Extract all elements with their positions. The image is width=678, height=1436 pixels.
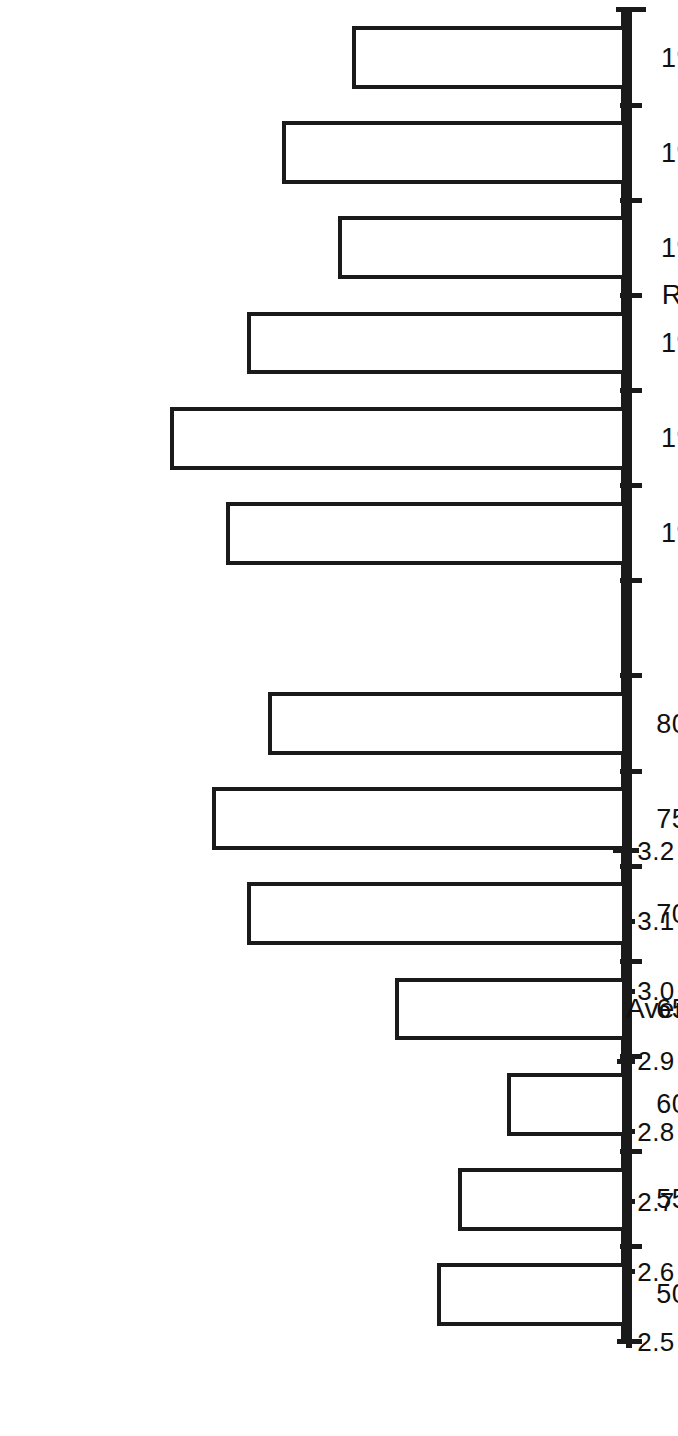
category-tick xyxy=(620,103,642,108)
bar xyxy=(212,787,626,850)
category-tick xyxy=(620,1340,642,1345)
bar xyxy=(507,1073,626,1136)
category-label-text: 55-59 xyxy=(656,1184,678,1215)
category-label-text: 60-64 xyxy=(656,1089,678,1120)
category-tick xyxy=(620,674,642,679)
category-label-text: 70-74 xyxy=(656,898,678,929)
bar xyxy=(247,882,626,945)
group-caption-text: Average of periods xyxy=(626,993,678,1025)
category-tick xyxy=(620,1149,642,1154)
category-label-text: 1982 xyxy=(661,328,678,359)
category-tick xyxy=(620,1054,642,1059)
category-tick xyxy=(620,388,642,393)
category-label-text: 1981 xyxy=(661,423,678,454)
bar xyxy=(338,216,626,279)
category-tick-end xyxy=(616,8,646,13)
bar xyxy=(226,502,626,565)
value-tick-label-text: 2.8 xyxy=(637,1116,675,1147)
bar xyxy=(282,121,626,184)
category-label-text: 75-79 xyxy=(656,803,678,834)
bar xyxy=(395,978,626,1041)
category-tick xyxy=(620,769,642,774)
bar xyxy=(247,312,626,375)
category-tick xyxy=(620,864,642,869)
value-tick-label-text: 3.2 xyxy=(637,836,675,867)
bar xyxy=(458,1168,626,1231)
category-label-text: 1983 xyxy=(661,232,678,263)
chart-figure: 3.23.13.02.92.82.72.62.5 50-5455-5960-64… xyxy=(0,0,678,1436)
bar xyxy=(437,1263,626,1326)
value-tick-label-text: 2.5 xyxy=(637,1327,675,1358)
chart-plot-stage: 3.23.13.02.92.82.72.62.5 50-5455-5960-64… xyxy=(0,0,678,1436)
value-tick-label-text: 2.9 xyxy=(637,1046,675,1077)
category-label-text: 80-85 xyxy=(656,708,678,739)
category-tick xyxy=(620,959,642,964)
category-tick xyxy=(620,578,642,583)
category-tick xyxy=(620,483,642,488)
category-label-text: 1985 xyxy=(661,42,678,73)
category-label-text: 50-54 xyxy=(656,1279,678,1310)
category-axis-line xyxy=(626,10,632,1348)
category-label-text: 1984 xyxy=(661,137,678,168)
bar xyxy=(170,407,626,470)
group-caption-text: Recent years xyxy=(662,279,678,311)
plot-area: 3.23.13.02.92.82.72.62.5 50-5455-5960-64… xyxy=(135,10,626,1342)
category-label-text: 1980 xyxy=(661,518,678,549)
bar xyxy=(268,692,626,755)
category-tick xyxy=(620,198,642,203)
category-tick xyxy=(620,1244,642,1249)
value-tick xyxy=(617,1059,635,1064)
bar xyxy=(352,26,626,89)
category-tick xyxy=(620,293,642,298)
